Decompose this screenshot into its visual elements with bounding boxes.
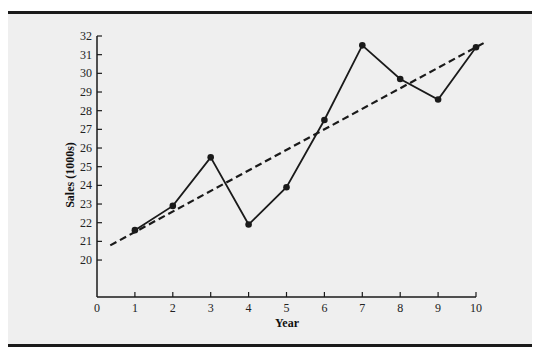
- y-tick-label: 30: [80, 66, 92, 80]
- data-point: [321, 117, 328, 124]
- data-point: [245, 221, 252, 228]
- y-tick-label: 24: [80, 178, 92, 192]
- x-axis-title: Year: [275, 316, 300, 330]
- x-tick-label: 9: [435, 301, 441, 315]
- y-tick-label: 28: [80, 104, 92, 118]
- x-tick-label: 2: [170, 301, 176, 315]
- x-tick-label: 5: [284, 301, 290, 315]
- x-tick-label: 8: [397, 301, 403, 315]
- x-tick-label: 3: [208, 301, 214, 315]
- y-tick-label: 26: [80, 141, 92, 155]
- data-point: [473, 44, 480, 51]
- axes: [97, 36, 476, 297]
- sales-line: [135, 45, 476, 230]
- y-tick-label: 25: [80, 160, 92, 174]
- y-tick-label: 20: [80, 253, 92, 267]
- y-axis-title: Sales (1000s): [63, 142, 77, 208]
- trend-line-group: [110, 43, 483, 245]
- trend-line: [110, 43, 483, 245]
- x-tick-label: 7: [359, 301, 365, 315]
- y-tick-label: 22: [80, 216, 92, 230]
- y-tick-label: 23: [80, 197, 92, 211]
- data-point: [132, 227, 139, 234]
- x-ticks: 012345678910: [94, 292, 482, 315]
- x-tick-label: 1: [132, 301, 138, 315]
- y-tick-label: 21: [80, 234, 92, 248]
- data-point: [283, 184, 290, 191]
- y-tick-label: 27: [80, 122, 92, 136]
- y-tick-label: 32: [80, 29, 92, 43]
- data-point: [359, 42, 366, 49]
- y-tick-label: 29: [80, 85, 92, 99]
- y-tick-label: 31: [80, 48, 92, 62]
- x-tick-label: 0: [94, 301, 100, 315]
- x-tick-label: 10: [470, 301, 482, 315]
- data-point: [207, 154, 214, 161]
- x-tick-label: 6: [321, 301, 327, 315]
- data-point: [435, 96, 442, 103]
- data-point: [397, 76, 404, 83]
- data-point: [170, 203, 177, 210]
- line-chart: 20212223242526272829303132 012345678910 …: [0, 0, 539, 356]
- x-tick-label: 4: [246, 301, 252, 315]
- y-ticks: 20212223242526272829303132: [80, 29, 102, 267]
